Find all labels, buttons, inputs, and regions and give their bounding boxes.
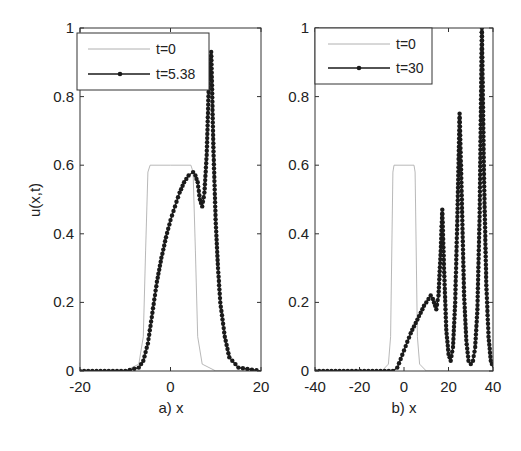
data-point-marker (459, 167, 463, 171)
x-tick-label: -20 (69, 378, 91, 395)
data-point-marker (454, 270, 458, 274)
data-point-marker (463, 322, 467, 326)
data-point-marker (230, 359, 234, 363)
data-point-marker (438, 261, 442, 265)
data-point-marker (407, 335, 411, 339)
data-point-marker (481, 118, 485, 122)
panel-b-legend: t=0 t=30 (315, 28, 432, 84)
data-point-marker (483, 225, 487, 229)
data-point-marker (461, 243, 465, 247)
data-point-marker (211, 141, 215, 145)
data-point-marker (166, 227, 170, 231)
data-point-marker (463, 318, 467, 322)
data-point-marker (482, 176, 486, 180)
data-point-marker (473, 341, 477, 345)
data-point-marker (443, 307, 447, 311)
data-point-marker (444, 311, 448, 315)
data-point-marker (441, 228, 445, 232)
data-point-marker (227, 355, 231, 359)
data-point-marker (460, 214, 464, 218)
data-point-marker (464, 334, 468, 338)
data-point-marker (437, 281, 441, 285)
data-point-marker (478, 173, 482, 177)
data-point-marker (477, 248, 481, 252)
data-point-marker (223, 335, 227, 339)
data-point-marker (478, 168, 482, 172)
data-point-marker (482, 159, 486, 163)
y-tick-label: 0.8 (288, 88, 309, 105)
data-point-marker (206, 111, 210, 115)
data-point-marker (483, 246, 487, 250)
data-point-marker (212, 162, 216, 166)
data-point-marker (206, 98, 210, 102)
data-point-marker (170, 213, 174, 217)
data-point-marker (164, 235, 168, 239)
y-tick-label: 0.6 (53, 156, 74, 173)
data-point-marker (454, 249, 458, 253)
data-point-marker (481, 88, 485, 92)
data-point-marker (236, 365, 240, 369)
data-point-marker (459, 184, 463, 188)
data-point-marker (451, 341, 455, 345)
data-point-marker (483, 217, 487, 221)
data-point-marker (154, 284, 158, 288)
data-point-marker (220, 313, 224, 317)
data-point-marker (460, 197, 464, 201)
data-point-marker (213, 196, 217, 200)
data-point-marker (456, 190, 460, 194)
data-point-marker (476, 273, 480, 277)
data-point-marker (453, 287, 457, 291)
y-tick-label: 1 (301, 19, 309, 36)
data-point-marker (474, 324, 478, 328)
data-point-marker (478, 206, 482, 210)
data-point-marker (488, 355, 492, 359)
data-point-marker (442, 282, 446, 286)
data-point-marker (454, 275, 458, 279)
data-point-marker (441, 237, 445, 241)
data-point-marker (211, 149, 215, 153)
data-point-marker (444, 332, 448, 336)
data-point-marker (399, 357, 403, 361)
data-point-marker (483, 209, 487, 213)
data-point-marker (484, 279, 488, 283)
data-point-marker (197, 189, 201, 193)
data-point-marker (459, 154, 463, 158)
data-point-marker (209, 54, 213, 58)
panel-a-legend: t=0 t=5.38 (77, 33, 209, 90)
data-point-marker (460, 231, 464, 235)
data-point-marker (486, 317, 490, 321)
data-point-marker (472, 354, 476, 358)
data-point-marker (461, 247, 465, 251)
data-point-marker (481, 147, 485, 151)
data-point-marker (482, 201, 486, 205)
data-point-marker (402, 348, 406, 352)
data-point-marker (465, 350, 469, 354)
data-point-marker (142, 354, 146, 358)
data-point-marker (205, 132, 209, 136)
data-point-marker (460, 227, 464, 231)
x-tick-label: 20 (253, 378, 270, 395)
data-point-marker (215, 242, 219, 246)
legend-label-initial: t=0 (396, 36, 416, 52)
data-point-marker (211, 120, 215, 124)
data-point-marker (210, 100, 214, 104)
data-point-marker (471, 359, 475, 363)
data-point-marker (209, 62, 213, 66)
data-point-marker (436, 298, 440, 302)
data-point-marker (449, 354, 453, 358)
data-point-marker (206, 119, 210, 123)
data-point-marker (215, 246, 219, 250)
data-point-marker (455, 210, 459, 214)
data-point-marker (437, 277, 441, 281)
data-point-marker (400, 353, 404, 357)
data-point-marker (153, 293, 157, 297)
data-point-marker (452, 321, 456, 325)
data-point-marker (461, 252, 465, 256)
data-point-marker (444, 315, 448, 319)
data-point-marker (486, 326, 490, 330)
data-point-marker (459, 172, 463, 176)
data-point-marker (405, 340, 409, 344)
data-point-marker (159, 256, 163, 260)
data-point-marker (452, 325, 456, 329)
data-point-marker (442, 270, 446, 274)
